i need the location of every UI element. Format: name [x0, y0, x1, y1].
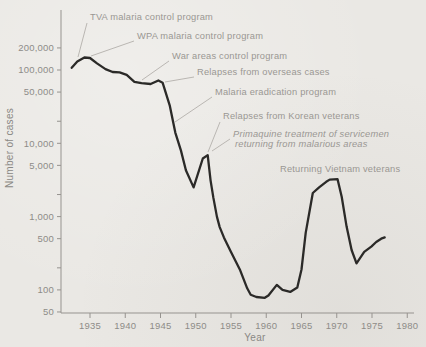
x-tick-label: 1970: [326, 320, 348, 331]
x-tick-label: 1955: [220, 320, 242, 331]
y-tick-label: 10,000: [24, 138, 54, 149]
y-tick-label: 50,000: [24, 86, 54, 97]
x-axis-title: Year: [244, 332, 266, 343]
annotation-label: Returning Vietnam veterans: [280, 164, 400, 174]
y-tick-label: 5,000: [29, 160, 54, 171]
y-tick-label: 500: [38, 233, 54, 244]
annotation-label: Primaquine treatment of servicemen: [233, 129, 389, 139]
annotation-label: WPA malaria control program: [137, 31, 263, 41]
annotation-leader-line: [91, 41, 134, 56]
x-tick-label: 1965: [291, 320, 313, 331]
annotation-leader-line: [165, 77, 194, 82]
y-tick-label: 100,000: [18, 64, 54, 75]
malaria-cases-line-chart: 200,000100,00050,00010,0005,0001,0005001…: [0, 0, 426, 347]
x-tick-label: 1940: [114, 320, 136, 331]
y-axis-title: Number of cases: [4, 108, 15, 188]
annotation-label: returning from malarious areas: [235, 139, 368, 149]
annotation-label: TVA malaria control program: [90, 12, 213, 22]
annotation-leader-line: [212, 139, 230, 151]
y-tick-label: 1,000: [29, 211, 54, 222]
annotation-leader-line: [142, 61, 169, 80]
annotation-label: Relapses from Korean veterans: [223, 111, 360, 121]
annotation-leader-line: [208, 122, 220, 152]
x-tick-label: 1980: [396, 320, 418, 331]
annotation-label: War areas control program: [172, 51, 287, 61]
scanned-chart-page: 200,000100,00050,00010,0005,0001,0005001…: [0, 0, 426, 347]
x-tick-label: 1975: [361, 320, 383, 331]
x-tick-label: 1935: [79, 320, 101, 331]
annotation-leader-line: [175, 97, 212, 122]
annotation-leader-line: [78, 23, 87, 57]
x-tick-label: 1960: [255, 320, 277, 331]
x-tick-label: 1950: [185, 320, 207, 331]
y-tick-label: 50: [43, 306, 54, 317]
annotation-label: Relapses from overseas cases: [197, 67, 330, 77]
y-tick-label: 200,000: [18, 42, 54, 53]
x-tick-label: 1945: [150, 320, 172, 331]
y-tick-label: 100: [38, 284, 54, 295]
annotation-label: Malaria eradication program: [215, 87, 336, 97]
